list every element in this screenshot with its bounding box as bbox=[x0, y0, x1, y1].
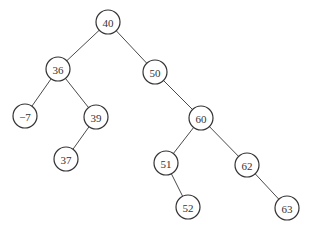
tree-node-37: 37 bbox=[54, 147, 78, 171]
tree-node-51: 51 bbox=[154, 151, 178, 175]
tree-node-60: 60 bbox=[189, 106, 213, 130]
tree-node-62: 62 bbox=[235, 153, 259, 177]
tree-node-50: 50 bbox=[143, 60, 167, 84]
tree-edge bbox=[173, 127, 193, 153]
tree-edge bbox=[209, 127, 238, 157]
tree-edge bbox=[32, 79, 51, 106]
tree-node-52: 52 bbox=[176, 195, 200, 219]
tree-node-39: 39 bbox=[84, 105, 108, 129]
tree-edge bbox=[67, 30, 100, 61]
tree-node-63: 63 bbox=[275, 196, 299, 220]
tree-edge bbox=[116, 31, 147, 64]
node-label: 50 bbox=[150, 67, 162, 79]
tree-edge bbox=[73, 127, 89, 149]
node-label: 63 bbox=[282, 203, 294, 215]
node-label: 52 bbox=[183, 202, 194, 214]
node-label: 37 bbox=[61, 154, 73, 166]
tree-edge bbox=[163, 80, 192, 109]
node-label: 51 bbox=[161, 158, 172, 170]
node-label: 60 bbox=[196, 113, 208, 125]
tree-edge bbox=[171, 174, 182, 197]
node-label: −7 bbox=[19, 111, 31, 123]
node-label: 36 bbox=[53, 64, 65, 76]
tree-node-36: 36 bbox=[46, 57, 70, 81]
tree-edge bbox=[255, 174, 279, 199]
binary-search-tree-diagram: 403650−739376051625263 bbox=[0, 0, 311, 227]
tree-nodes: 403650−739376051625263 bbox=[13, 10, 299, 220]
tree-node-40: 40 bbox=[96, 10, 120, 34]
tree-node-neg7: −7 bbox=[13, 104, 37, 128]
node-label: 40 bbox=[103, 17, 115, 29]
node-label: 39 bbox=[91, 112, 103, 124]
tree-edge bbox=[65, 78, 88, 107]
node-label: 62 bbox=[242, 160, 253, 172]
